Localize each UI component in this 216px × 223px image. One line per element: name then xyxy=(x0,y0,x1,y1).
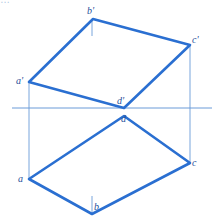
label-c: c xyxy=(192,157,197,168)
label-b-prime: b' xyxy=(87,5,95,16)
label-c-prime: c' xyxy=(192,34,199,45)
projection-diagram: b' c' a' d' d a b c xyxy=(0,0,216,223)
front-view-quadrilateral xyxy=(29,19,190,108)
label-a: a xyxy=(18,173,23,184)
top-view-quadrilateral xyxy=(29,116,190,214)
label-d-prime: d' xyxy=(117,95,125,106)
label-a-prime: a' xyxy=(16,75,24,86)
label-b: b xyxy=(94,201,99,212)
